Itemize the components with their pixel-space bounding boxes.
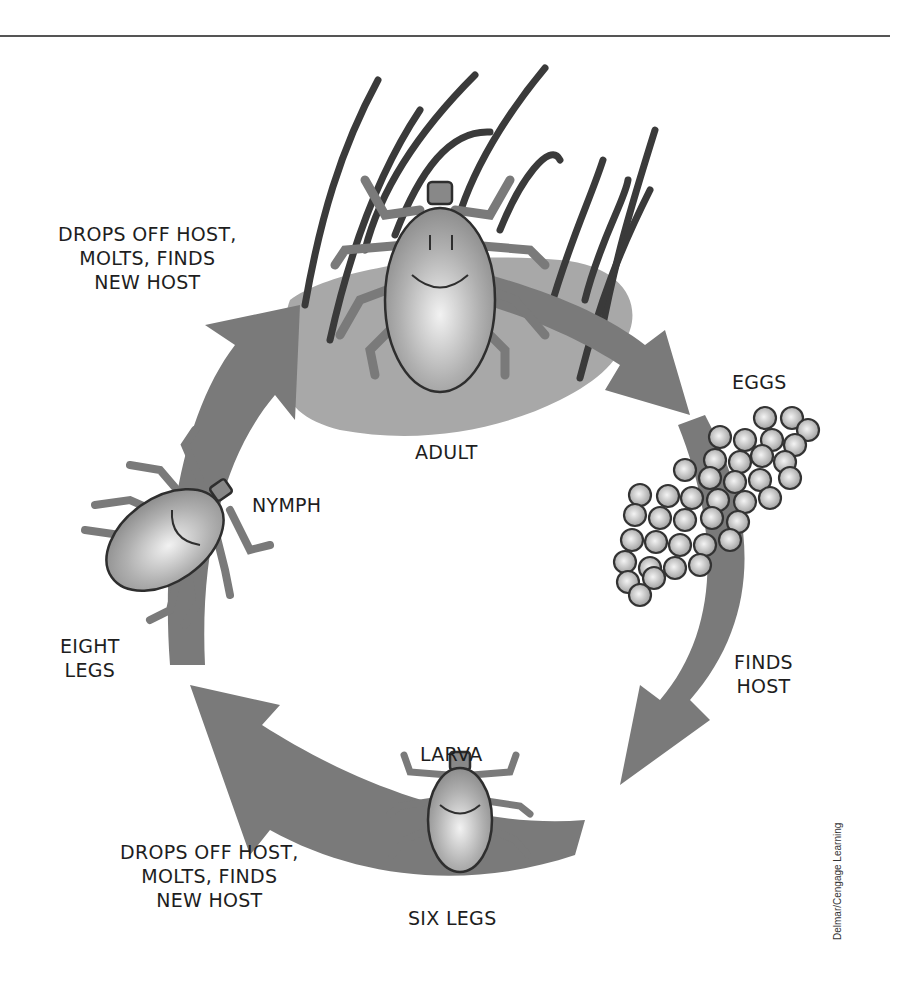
label-line: MOLTS, FINDS [58,246,237,270]
label-line: FINDS [734,650,793,674]
stage-label-nymph: NYMPH [252,493,321,517]
stage-label-eggs: EGGS [732,370,787,394]
transition-label-eggs-to-larva: FINDS HOST [734,650,793,698]
label-line: NEW HOST [120,888,299,912]
label-line: NEW HOST [58,270,237,294]
label-line: HOST [734,674,793,698]
arrow-nymph-to-adult [168,305,300,665]
stage-label-adult: ADULT [415,440,478,464]
transition-label-nymph-to-adult: DROPS OFF HOST, MOLTS, FINDS NEW HOST [58,222,237,294]
label-line: EIGHT [60,634,120,658]
label-line: DROPS OFF HOST, [120,840,299,864]
image-credit: Delmar/Cengage Learning [832,823,843,940]
label-line: LEGS [60,658,120,682]
label-line: MOLTS, FINDS [120,864,299,888]
nymph-tick-icon [85,430,270,625]
larva-note-six-legs: SIX LEGS [408,906,497,930]
stage-label-larva: LARVA [420,742,482,766]
life-cycle-artwork [0,0,901,987]
nymph-note-eight-legs: EIGHT LEGS [60,634,120,682]
transition-label-larva-to-nymph: DROPS OFF HOST, MOLTS, FINDS NEW HOST [120,840,299,912]
label-line: DROPS OFF HOST, [58,222,237,246]
